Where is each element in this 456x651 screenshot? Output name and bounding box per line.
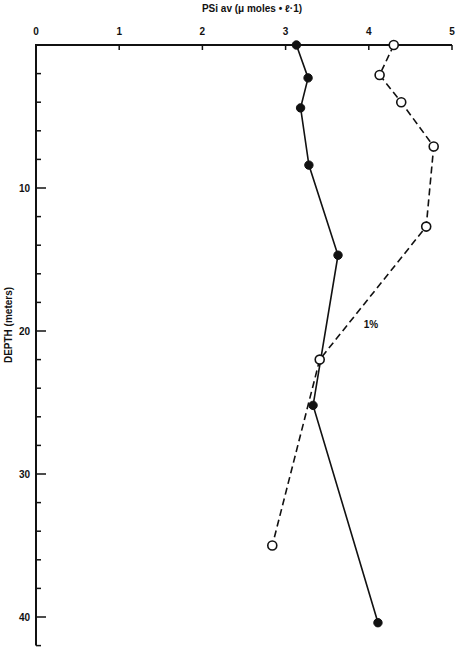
filled-circle-marker [374, 619, 382, 627]
series-line [272, 45, 433, 546]
filled-circle-marker [292, 41, 300, 49]
open-circle-marker [389, 41, 398, 50]
axes [36, 44, 452, 646]
y-tick-label: 20 [19, 326, 31, 337]
x-axis-title: PSi av (μ moles • ℓ·1) [202, 3, 302, 14]
y-tick-label: 10 [19, 183, 31, 194]
x-tick-label: 4 [366, 26, 372, 37]
open-circle-marker [429, 142, 438, 151]
x-tick-label: 1 [116, 26, 122, 37]
x-tick-label: 0 [33, 26, 39, 37]
open-circle-marker [268, 541, 277, 550]
filled-circle-marker [296, 104, 304, 112]
open-circle-marker [397, 98, 406, 107]
filled-circle-marker [305, 161, 313, 169]
depth-profile-chart: PSi av (μ moles • ℓ·1) DEPTH (meters) 01… [0, 0, 456, 651]
annotation-label: 1% [364, 319, 379, 330]
y-axis-title: DEPTH (meters) [3, 287, 14, 363]
open-circle-marker [422, 222, 431, 231]
series-lines [272, 45, 433, 623]
series-line [296, 45, 378, 623]
annotations: 1% [364, 319, 379, 330]
filled-circle-marker [304, 74, 312, 82]
x-tick-label: 3 [283, 26, 289, 37]
y-axis-ticks: 10203040 [19, 74, 46, 646]
filled-circle-marker [334, 251, 342, 259]
x-tick-label: 2 [200, 26, 206, 37]
open-circle-marker [375, 71, 384, 80]
x-tick-label: 5 [449, 26, 455, 37]
y-tick-label: 30 [19, 469, 31, 480]
open-circle-marker [315, 355, 324, 364]
y-tick-label: 40 [19, 612, 31, 623]
filled-circle-marker [309, 401, 317, 409]
